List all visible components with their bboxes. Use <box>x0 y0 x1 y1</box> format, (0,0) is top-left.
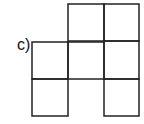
cell-r2-c2 <box>104 79 139 116</box>
cell-r2-c0 <box>32 79 68 116</box>
cell-r0-c2 <box>104 4 139 41</box>
cell-r0-c1 <box>68 4 104 41</box>
cell-r1-c1 <box>68 42 104 79</box>
cell-r1-c2 <box>104 41 139 79</box>
grid-net-diagram <box>0 0 144 124</box>
cell-r1-c0 <box>32 42 68 79</box>
